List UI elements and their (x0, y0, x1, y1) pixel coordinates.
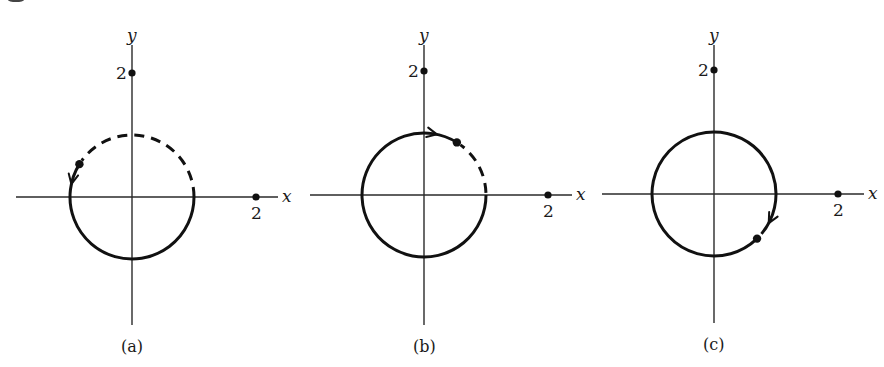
moving-point (75, 160, 83, 168)
x-axis-label: x (868, 183, 878, 203)
path-arc-remaining (460, 145, 486, 193)
y-axis-label: y (418, 25, 429, 45)
panel-a: xy22(a) (16, 25, 292, 356)
y-tick-label: 2 (408, 61, 419, 81)
x-tick-dot (252, 193, 259, 200)
x-axis-label: x (576, 184, 586, 204)
y-tick-dot (710, 66, 717, 73)
x-tick-dot (834, 190, 841, 197)
y-tick-dot (420, 67, 427, 74)
panel-c: xy22(c) (602, 25, 878, 354)
y-tick-label: 2 (698, 60, 709, 80)
panel-caption: (b) (413, 337, 436, 356)
x-tick-label: 2 (251, 203, 262, 223)
y-tick-label: 2 (116, 63, 127, 83)
moving-point (753, 234, 761, 242)
panel-b: xy22(b) (310, 25, 586, 356)
y-axis-label: y (708, 25, 719, 45)
path-arc-remaining (82, 135, 194, 197)
x-tick-label: 2 (833, 200, 844, 220)
figure-canvas: xy22(a) xy22(b) xy22(c) (0, 0, 884, 367)
x-axis-label: x (282, 186, 292, 206)
x-tick-label: 2 (543, 201, 554, 221)
y-axis-label: y (126, 25, 137, 45)
moving-point (453, 138, 461, 146)
panel-caption: (a) (121, 337, 143, 356)
y-tick-dot (128, 69, 135, 76)
scan-artifact (8, 0, 24, 2)
x-tick-dot (544, 191, 551, 198)
panel-caption: (c) (703, 335, 724, 354)
